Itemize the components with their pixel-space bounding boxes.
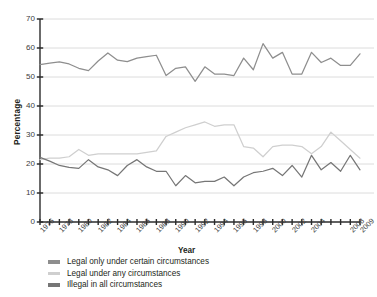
- legend-item-1[interactable]: Legal under any circumstances: [48, 268, 348, 280]
- x-axis-title: Year: [178, 246, 195, 255]
- chart-legend: Legal only under certain circumstancesLe…: [48, 256, 348, 291]
- legend-label: Legal only under certain circumstances: [67, 256, 209, 268]
- y-tick-label: 10: [12, 188, 35, 197]
- legend-swatch-icon: [48, 272, 60, 276]
- y-tick-label: 50: [12, 72, 35, 81]
- y-tick-label: 20: [12, 159, 35, 168]
- chart-container: Percentage Year 010203040506070 19761978…: [0, 0, 377, 297]
- y-tick-label: 70: [12, 14, 35, 23]
- legend-swatch-icon: [48, 260, 60, 264]
- y-tick-label: 40: [12, 101, 35, 110]
- y-tick-label: 60: [12, 43, 35, 52]
- y-tick-label: 0: [12, 217, 35, 226]
- legend-item-2[interactable]: Illegal in all circumstances: [48, 279, 348, 291]
- legend-item-0[interactable]: Legal only under certain circumstances: [48, 256, 348, 268]
- legend-label: Legal under any circumstances: [67, 268, 180, 280]
- legend-swatch-icon: [48, 283, 60, 287]
- legend-label: Illegal in all circumstances: [67, 279, 162, 291]
- series-line-2: [40, 155, 360, 185]
- series-line-1: [40, 122, 360, 160]
- y-tick-label: 30: [12, 130, 35, 139]
- series-line-0: [40, 44, 360, 82]
